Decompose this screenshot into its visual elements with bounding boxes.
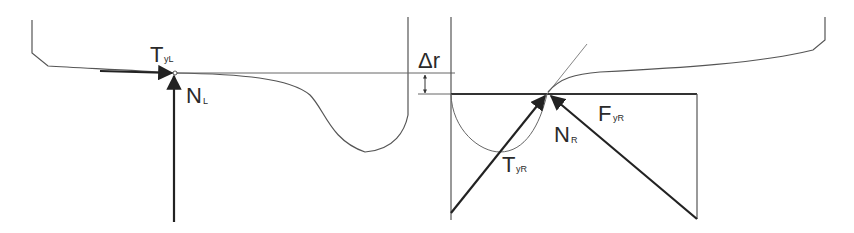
label-tangential-left-sub: yL (164, 54, 174, 64)
label-tangential-right: T yR (502, 152, 528, 177)
label-tangential-left-main: T (150, 42, 163, 67)
left-contact-point (173, 71, 177, 75)
label-delta-r-main: Δr (418, 48, 440, 73)
label-force-right-main: F (598, 101, 611, 126)
label-tangential-left: T yL (150, 42, 174, 67)
normal-right-arrow (551, 96, 697, 219)
right-flange-curve (451, 94, 547, 152)
label-normal-right-main: N (554, 122, 570, 147)
label-tangential-right-main: T (502, 152, 515, 177)
label-normal-right: N R (554, 122, 578, 147)
label-normal-left-sub: L (203, 96, 208, 106)
label-tangential-right-sub: yR (516, 164, 528, 174)
label-normal-left: N L (186, 83, 208, 108)
tangential-right-arrow (451, 96, 545, 213)
wheel-rail-contact-diagram: T yL N L Δr F yR N R T yR (0, 0, 854, 233)
label-force-right-sub: yR (613, 113, 625, 123)
label-normal-left-main: N (186, 83, 202, 108)
right-wheel-profile (548, 17, 825, 92)
tangential-left-arrow (100, 71, 172, 73)
label-force-right: F yR (598, 101, 625, 126)
label-normal-right-sub: R (571, 135, 578, 145)
left-flange-curve (175, 17, 408, 152)
label-delta-r: Δr (418, 48, 440, 73)
